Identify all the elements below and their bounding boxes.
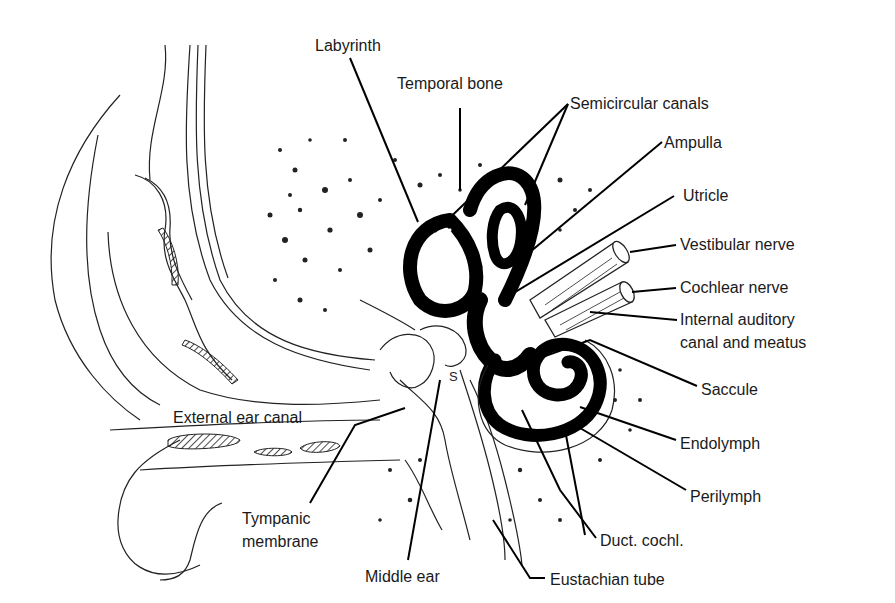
leader-lines: [310, 58, 697, 578]
label-tympanic-membrane-line1: Tympanic: [242, 509, 318, 528]
temporal-bone-texture: [268, 138, 643, 522]
label-vestibular-nerve: Vestibular nerve: [680, 235, 795, 254]
label-utricle: Utricle: [683, 186, 728, 205]
label-labyrinth: Labyrinth: [315, 36, 381, 55]
label-ampulla: Ampulla: [664, 133, 722, 152]
label-middle-ear: Middle ear: [365, 567, 440, 586]
label-endolymph: Endolymph: [680, 434, 760, 453]
label-eustachian-tube: Eustachian tube: [550, 570, 665, 589]
middle-ear-structures: [360, 300, 522, 565]
label-saccule: Saccule: [701, 380, 758, 399]
label-internal-auditory-canal-line2: canal and meatus: [680, 333, 806, 352]
label-duct-cochl: Duct. cochl.: [600, 531, 684, 550]
label-external-ear-canal: External ear canal: [173, 408, 302, 427]
pinna-outline: [51, 45, 400, 580]
label-semicircular-canals: Semicircular canals: [570, 94, 709, 113]
label-tympanic-membrane: Tympanic membrane: [242, 509, 318, 551]
label-internal-auditory-canal-line1: Internal auditory: [680, 310, 806, 329]
label-temporal-bone: Temporal bone: [397, 74, 503, 93]
stapes-mark: S: [449, 369, 458, 384]
label-perilymph: Perilymph: [690, 487, 761, 506]
label-internal-auditory-canal: Internal auditory canal and meatus: [680, 310, 806, 352]
label-tympanic-membrane-line2: membrane: [242, 532, 318, 551]
labyrinth: [410, 173, 600, 435]
label-cochlear-nerve: Cochlear nerve: [680, 278, 789, 297]
